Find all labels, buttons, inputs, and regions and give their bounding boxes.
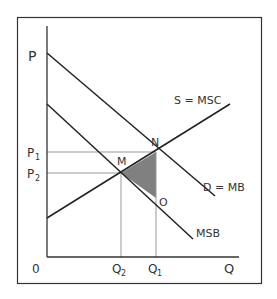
point-o-label: O <box>159 196 168 209</box>
msb-curve <box>47 104 193 239</box>
msb-label: MSB <box>196 227 220 240</box>
demand-mb-label: D = MB <box>203 181 245 194</box>
diagram-frame <box>18 18 262 284</box>
svg-text:1: 1 <box>157 269 162 278</box>
q2-label: Q 2 <box>112 262 126 278</box>
y-axis-label: P <box>28 48 36 64</box>
economics-diagram: P Q 0 P 1 P 2 Q 2 Q 1 N M O S = MSC D = … <box>0 0 277 299</box>
point-n-label: N <box>151 136 159 149</box>
point-m-label: M <box>117 155 127 168</box>
svg-text:2: 2 <box>35 174 40 183</box>
supply-msc-label: S = MSC <box>174 94 222 107</box>
p1-label: P 1 <box>27 146 40 162</box>
x-axis-label: Q <box>224 261 234 276</box>
p2-label: P 2 <box>27 167 40 183</box>
svg-text:P: P <box>27 146 34 160</box>
q1-label: Q 1 <box>148 262 162 278</box>
svg-text:2: 2 <box>121 269 126 278</box>
svg-text:1: 1 <box>35 153 40 162</box>
supply-msc-curve <box>47 104 230 218</box>
origin-label: 0 <box>32 262 40 276</box>
svg-text:P: P <box>27 167 34 181</box>
